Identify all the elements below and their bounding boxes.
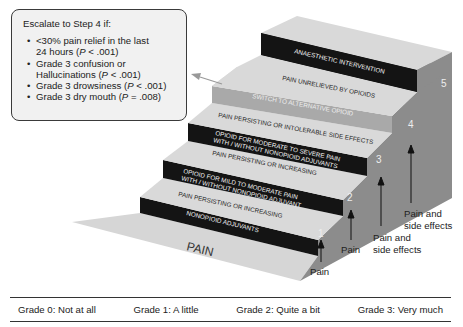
step-number-3: 3 [376, 154, 382, 165]
callout-item-text: < .001) [86, 46, 119, 57]
callout-item-text: = .008) [128, 91, 161, 102]
arrow-label-3-line1: Pain and [373, 232, 411, 243]
callout-item-text: < .001) [134, 80, 167, 91]
arrow-label-2: Pain [341, 244, 360, 255]
step-number-4: 4 [408, 119, 414, 130]
callout-item-text: Grade 3 dry mouth ( [36, 91, 122, 102]
callout-item-text: Grade 3 drowsiness ( [36, 80, 127, 91]
callout-item: Grade 3 dry mouth (P = .008) [27, 91, 178, 102]
callout-item-text: < .001) [108, 69, 141, 80]
callout-item-text: <30% pain relief in the last [36, 35, 149, 46]
arrow-label-4-line2: side effects [404, 220, 453, 231]
callout-criteria-list: <30% pain relief in the last 24 hours (P… [23, 35, 178, 102]
arrow-label-1: Pain [310, 266, 329, 277]
grade-legend: Grade 0: Not at all Grade 1: A little Gr… [10, 297, 451, 322]
grade-0-label: Grade 0: Not at all [18, 304, 96, 315]
grade-1-label: Grade 1: A little [134, 304, 199, 315]
callout-item: Grade 3 confusion or Hallucinations (P <… [27, 58, 178, 80]
step-number-1: 1 [318, 228, 324, 239]
arrow-label-4-line1: Pain and [404, 208, 442, 219]
callout-pointer-line [200, 77, 222, 84]
grade-3-label: Grade 3: Very much [358, 304, 443, 315]
callout-item: Grade 3 drowsiness (P < .001) [27, 80, 178, 91]
callout-item: <30% pain relief in the last 24 hours (P… [27, 35, 178, 57]
callout-pointer-arrowhead-icon [191, 73, 201, 80]
step-number-2: 2 [347, 192, 353, 203]
escalation-callout: Escalate to Step 4 if: <30% pain relief … [11, 9, 187, 121]
callout-item-text: Grade 3 confusion or [36, 58, 126, 69]
step-number-5: 5 [441, 78, 447, 89]
arrow-label-3-line2: side effects [373, 244, 422, 255]
callout-item-text: 24 hours ( [36, 46, 79, 57]
grade-2-label: Grade 2: Quite a bit [236, 304, 320, 315]
callout-title: Escalate to Step 4 if: [23, 18, 178, 29]
callout-item-text: Hallucinations ( [36, 69, 102, 80]
